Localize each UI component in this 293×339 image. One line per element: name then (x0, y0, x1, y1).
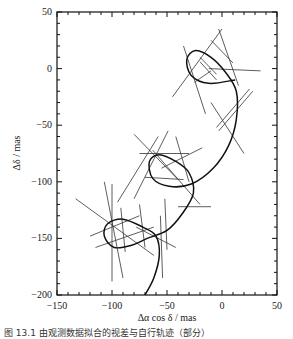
observation-line (121, 208, 125, 252)
y-tick-label: −200 (31, 289, 52, 300)
y-tick-label: −50 (36, 119, 52, 130)
y-tick-label: −150 (31, 232, 52, 243)
observation-line (176, 137, 189, 182)
x-tick-label: −100 (102, 300, 123, 311)
x-axis-label: Δα cos δ / mas (138, 312, 197, 323)
observation-line (160, 216, 162, 278)
y-tick-label: −100 (31, 176, 52, 187)
figure-caption: 图 13.1 由观测数据拟合的视差与自行轨迹（部分） (4, 326, 210, 339)
observation-line (200, 62, 217, 80)
orbit-curve (104, 50, 238, 295)
observation-line (217, 89, 250, 127)
observation-line (104, 182, 123, 278)
x-tick-label: 0 (220, 300, 225, 311)
x-tick-label: 50 (272, 300, 282, 311)
y-axis-label: Δδ / mas (11, 135, 22, 170)
y-tick-label: 0 (47, 63, 52, 74)
observation-line (134, 134, 178, 179)
observation-line (118, 137, 159, 203)
observation-line (211, 103, 244, 154)
observation-line (134, 131, 168, 199)
y-tick-label: 50 (42, 6, 52, 17)
observation-line (209, 69, 261, 71)
observation-line (173, 29, 223, 97)
x-tick-label: −150 (47, 300, 68, 311)
x-tick-label: −50 (159, 300, 175, 311)
observation-lines (76, 29, 261, 281)
observation-line (90, 216, 140, 236)
